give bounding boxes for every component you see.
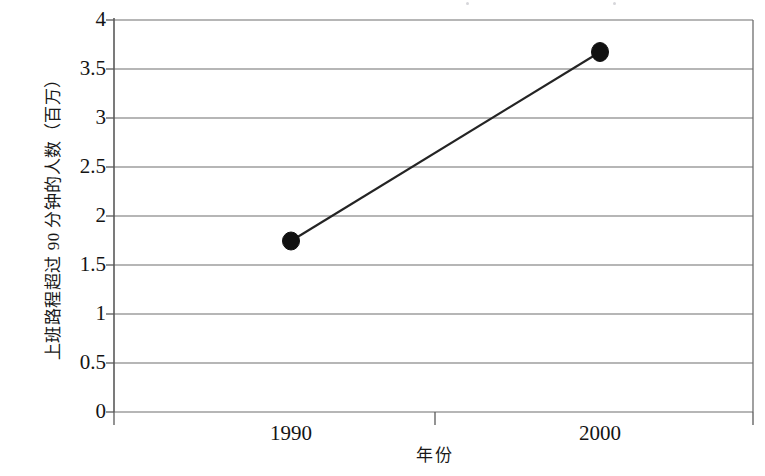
x-axis-title: 年份 [416, 441, 454, 466]
x-tick-label-2000: 2000 [579, 423, 621, 444]
chart-figure: 4 3.5 3 2.5 2 1.5 1 0.5 0 1990 2000 上班路程… [0, 0, 765, 476]
x-tick-label-1990: 1990 [270, 423, 312, 444]
y-axis-title: 上班路程超过 90 分钟的人数（百万） [34, 0, 68, 430]
x-tick-label-group: 1990 2000 [0, 0, 765, 476]
